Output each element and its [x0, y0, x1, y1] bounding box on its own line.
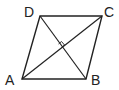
diagonal-bd [40, 16, 86, 79]
vertex-label-b: B [91, 73, 100, 87]
vertex-label-c: C [104, 5, 114, 19]
vertex-label-d: D [24, 5, 34, 19]
vertex-label-a: A [5, 73, 14, 87]
rhombus-diagram [0, 0, 119, 90]
